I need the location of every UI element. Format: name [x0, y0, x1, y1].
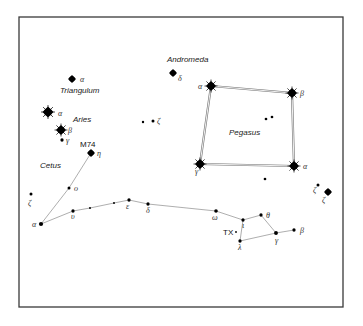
constellation-name-cetus: Cetus — [40, 161, 61, 170]
pegasus-square-inner — [200, 86, 294, 166]
constellation-name-pegasus: Pegasus — [229, 128, 260, 137]
star-ari-alpha — [41, 105, 55, 119]
star-ari-beta — [55, 124, 68, 137]
stars — [30, 69, 333, 243]
star-peg-below — [264, 178, 267, 181]
star-dot-icon — [89, 207, 91, 209]
star-label: ω — [212, 213, 218, 222]
star-label: ζ — [157, 117, 161, 126]
star-dot-icon — [271, 116, 274, 119]
star-label: β — [67, 126, 72, 135]
star-label: ο — [74, 184, 78, 193]
star-label: ζ — [322, 196, 326, 205]
star-psc-zeta — [152, 120, 155, 123]
star-cet-omicron — [68, 187, 71, 190]
constellation-name-triangulum: Triangulum — [60, 86, 100, 95]
star-dot-icon — [142, 121, 144, 123]
star-psc-beta — [292, 228, 295, 231]
star-dot-icon — [60, 138, 63, 141]
star-dot-icon — [152, 120, 155, 123]
star-label: α — [80, 75, 85, 84]
star-dot-icon — [113, 202, 115, 204]
star-label: λ — [237, 243, 242, 252]
star-label: ε — [126, 202, 130, 211]
star-and-delta — [169, 69, 177, 77]
constellation-line — [276, 230, 294, 233]
star-label: δ — [178, 74, 182, 83]
star-dot-icon — [30, 193, 33, 196]
star-label: υ — [71, 212, 75, 221]
star-cet-eta — [87, 149, 95, 157]
star-peg-alpha2 — [288, 160, 301, 173]
star-label: α — [58, 109, 63, 118]
star-cet-zeta — [30, 193, 33, 196]
star-label: ι — [242, 221, 244, 230]
star-cet-alpha — [39, 222, 43, 226]
star-dot-icon — [265, 118, 268, 121]
star-dot-icon — [39, 222, 43, 226]
star-cet-b — [113, 202, 115, 204]
star-psc-theta — [259, 213, 262, 216]
star-label: θ — [266, 211, 270, 220]
star-ari-gamma — [60, 138, 63, 141]
constellation-line — [69, 153, 91, 188]
star-chart: αδαβγηζαβγαζζζοαυεδωιθγβλ AndromedaTrian… — [0, 0, 363, 326]
star-tri-alpha — [68, 75, 76, 83]
star-peg-in1 — [265, 118, 268, 121]
constellation-line — [129, 200, 148, 204]
star-label: ζ — [28, 199, 32, 208]
star-label: γ — [66, 136, 70, 145]
star-psc-zeta-b — [324, 188, 332, 196]
star-dot-icon — [259, 213, 262, 216]
constellation-name-andromeda: Andromeda — [166, 55, 209, 64]
star-label: δ — [146, 206, 150, 215]
star-dot-icon — [292, 228, 295, 231]
star-dot-icon — [274, 231, 278, 235]
star-label: γ — [195, 167, 199, 176]
star-label: α — [303, 162, 308, 171]
pegasus-square-line — [200, 86, 294, 166]
star-core-icon — [69, 76, 75, 82]
star-dot-icon — [68, 187, 71, 190]
star-label: α — [32, 220, 37, 229]
object-label-tx: TX — [223, 228, 234, 237]
star-psc-a — [142, 121, 144, 123]
constellation-line — [73, 208, 90, 211]
constellation-line — [240, 233, 276, 241]
constellation-line — [216, 211, 243, 220]
great-square-of-pegasus — [200, 86, 294, 166]
star-label: α — [198, 82, 203, 91]
star-dot-icon — [264, 178, 267, 181]
object-label-m74: M74 — [80, 140, 96, 149]
star-peg-in2 — [271, 116, 274, 119]
star-peg-beta — [286, 87, 299, 100]
star-label: ζ — [313, 186, 317, 195]
star-cet-a — [89, 207, 91, 209]
constellation-line — [90, 203, 114, 208]
constellation-name-aries: Aries — [72, 115, 91, 124]
star-label: β — [299, 226, 304, 235]
star-label: η — [97, 149, 101, 158]
tx-star-dot-icon — [235, 231, 237, 233]
star-labels: αδαβγηζαβγαζζζοαυεδωιθγβλ — [28, 74, 326, 252]
star-core-icon — [170, 70, 176, 76]
star-label: β — [299, 89, 304, 98]
star-psc-gamma — [274, 231, 278, 235]
star-core-icon — [325, 189, 331, 195]
star-core-icon — [88, 150, 94, 156]
constellation-line — [148, 204, 216, 211]
star-label: γ — [275, 236, 279, 245]
star-dot-icon — [317, 184, 320, 187]
constellation-line — [243, 215, 261, 220]
star-peg-alpha — [205, 80, 218, 93]
star-psc-zeta-a — [317, 184, 320, 187]
